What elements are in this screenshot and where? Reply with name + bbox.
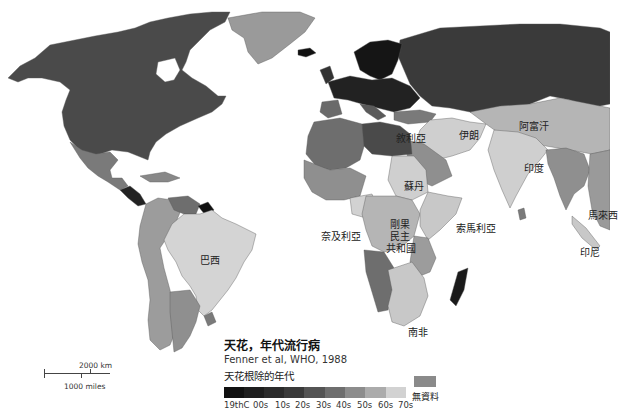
greenland: [228, 12, 315, 64]
label-drc-1: 剛果: [390, 220, 410, 230]
scale-tick-start: [44, 369, 45, 378]
label-sudan: 蘇丹: [404, 182, 424, 192]
label-drc-3: 共和國: [386, 244, 416, 254]
legend-swatch: [284, 387, 304, 398]
legend-swatch: [244, 387, 264, 398]
caribbean: [140, 172, 180, 182]
legend-color-bar: [224, 387, 414, 398]
scale-line: [44, 373, 110, 374]
label-iran: 伊朗: [459, 131, 479, 141]
sri-lanka: [518, 208, 526, 220]
legend-tick: 00s: [253, 400, 268, 410]
legend-title: 天花，年代流行病: [224, 339, 414, 353]
legend-tick: 20s: [295, 400, 310, 410]
no-data-swatch: [414, 376, 436, 387]
label-south-africa: 南非: [408, 328, 428, 338]
madagascar: [450, 268, 468, 306]
legend-swatch: [264, 387, 284, 398]
legend-tick: 10s: [275, 400, 290, 410]
legend-tick-labels: 19thC 00s 10s 20s 30s 40s 50s 60s 70s: [224, 400, 414, 410]
label-indonesia: 印尼: [580, 248, 600, 258]
north-africa-west: [306, 118, 366, 170]
legend-tick: 19thC: [224, 400, 249, 410]
central-america: [120, 186, 146, 206]
label-somalia: 索馬利亞: [456, 224, 496, 234]
scale-bar: [44, 368, 110, 382]
scandinavia: [354, 40, 402, 80]
label-drc-2: 民主: [390, 232, 410, 242]
legend-swatch: [304, 387, 325, 398]
legend-swatch: [345, 387, 365, 398]
label-nigeria: 奈及利亞: [321, 232, 361, 242]
legend-swatch: [365, 387, 386, 398]
iceland: [298, 48, 316, 57]
legend-swatch: [224, 387, 244, 398]
sumatra: [572, 216, 600, 250]
label-malaysia: 馬來西: [588, 211, 618, 221]
southeast-asia: [546, 148, 590, 210]
label-syria: 敘利亞: [396, 134, 426, 144]
iberia: [320, 100, 342, 118]
legend-swatch: [386, 387, 406, 398]
legend-tick: 30s: [316, 400, 331, 410]
legend-no-data: 無資料: [414, 376, 436, 387]
label-india: 印度: [524, 164, 544, 174]
legend-source: Fenner et al, WHO, 1988: [224, 353, 414, 366]
scale-tick-miles: [81, 373, 82, 378]
legend-swatch: [325, 387, 345, 398]
label-brazil: 巴西: [200, 256, 220, 266]
legend-tick: 50s: [357, 400, 372, 410]
legend: 天花，年代流行病 Fenner et al, WHO, 1988 天花根除的年代…: [224, 339, 414, 410]
legend-subtitle: 天花根除的年代: [224, 369, 414, 383]
no-data-label: 無資料: [412, 390, 439, 403]
argentina: [170, 290, 200, 352]
legend-tick: 40s: [336, 400, 351, 410]
north-america: [8, 12, 230, 160]
scale-miles-label: 1000 miles: [64, 382, 105, 391]
label-afghanistan: 阿富汗: [519, 122, 549, 132]
scale-tick-km: [90, 369, 91, 374]
legend-tick: 60s: [378, 400, 393, 410]
legend-tick: 70s: [398, 400, 413, 410]
